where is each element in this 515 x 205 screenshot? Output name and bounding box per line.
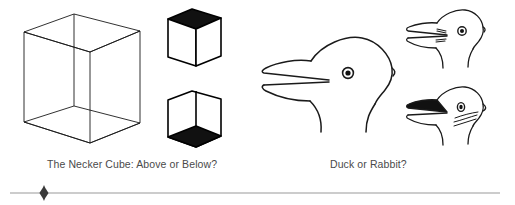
duck-lower-bill-inner: [408, 36, 447, 38]
rabbit-nose-notch: [483, 104, 486, 111]
rabbit-ear-lower-inner: [408, 113, 447, 115]
rabbit-head-dome: [437, 87, 483, 126]
illustration-layer: [0, 0, 515, 205]
cube-above-top-face: [168, 9, 221, 29]
rabbit-whisker-3: [454, 119, 476, 126]
duck-upper-bill: [407, 23, 447, 35]
cube-below-bottom-face: [168, 126, 221, 147]
duck-neck: [468, 49, 473, 67]
duck-lower-bill-outer: [407, 38, 436, 48]
eye-pupil: [345, 70, 350, 75]
caption-necker-cube: The Necker Cube: Above or Below?: [47, 158, 217, 170]
lower-bill-inner: [264, 82, 329, 85]
duck-nape-notch: [483, 27, 485, 32]
rabbit-whisker-2: [454, 115, 477, 122]
duck-throat: [436, 48, 443, 68]
lower-bill-outer: [262, 85, 310, 101]
eye-ring: [343, 68, 354, 79]
head-dome: [311, 37, 392, 104]
cube-above-left-face: [168, 19, 196, 66]
caption-duck-rabbit: Duck or Rabbit?: [330, 158, 407, 170]
footer-rule-graphic: [0, 180, 515, 205]
duck-bill-serration-upper: [437, 29, 446, 33]
diamond-ornament-icon: [40, 185, 49, 201]
cube-below-solid: [168, 91, 221, 147]
rabbit-eye-ring: [457, 103, 464, 112]
rabbit-ear-upper: [407, 100, 447, 112]
cube-below-body: [168, 91, 221, 147]
cube-above-solid: [168, 9, 221, 66]
duck-rabbit-ambiguous: [262, 37, 395, 132]
cube-above-right-face: [196, 18, 221, 66]
duck-eye-ring: [458, 27, 466, 35]
upper-bill: [262, 60, 329, 80]
rabbit-throat: [436, 125, 443, 145]
rabbit-whisker-1: [455, 112, 478, 118]
duck-head-dome: [437, 10, 483, 49]
rabbit-ear-lower-outer: [407, 115, 436, 125]
neck-curve: [366, 104, 375, 132]
figure-panel: The Necker Cube: Above or Below? Duck or…: [0, 0, 515, 205]
necker-cube-wireframe: [24, 14, 140, 143]
rabbit-neck: [468, 126, 473, 144]
nose-notch: [392, 68, 395, 76]
throat-curve: [310, 101, 321, 132]
duck-bill-serration-lower: [436, 39, 446, 42]
rabbit-reading: [407, 87, 486, 145]
cube-below-hint2: [192, 91, 196, 126]
rabbit-eye-pupil: [459, 105, 462, 110]
duck-reading: [407, 10, 485, 68]
footer-rule: [0, 180, 515, 205]
duck-eye-pupil: [460, 29, 464, 33]
cube-below-hint: [168, 100, 196, 110]
